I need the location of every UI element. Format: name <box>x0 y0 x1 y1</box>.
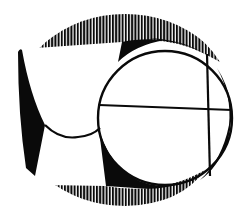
top-hatched-band <box>22 13 220 62</box>
abstract-emblem <box>0 0 247 217</box>
main-circle <box>98 51 232 185</box>
shield-curve <box>45 125 100 138</box>
left-black-wedge <box>18 49 45 176</box>
horizontal-line <box>99 105 232 110</box>
vertical-line <box>207 54 210 176</box>
